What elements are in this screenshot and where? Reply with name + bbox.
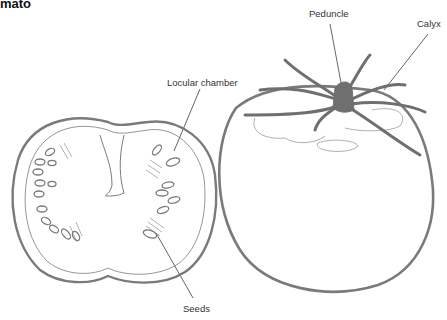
calyx-leader <box>384 34 428 90</box>
peduncle <box>333 82 354 112</box>
sliced-tomato <box>13 118 217 282</box>
tomato-illustration <box>0 0 447 320</box>
whole-tomato <box>219 55 433 292</box>
seeds-leader <box>156 233 193 298</box>
peduncle-leader <box>330 24 342 88</box>
locular-chamber-leader <box>174 89 200 151</box>
